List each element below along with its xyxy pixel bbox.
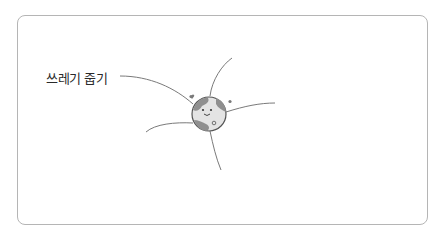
smiling-earth-globe-icon bbox=[192, 97, 226, 131]
heart-icon-left-dot bbox=[189, 95, 192, 98]
mindmap-canvas bbox=[0, 0, 442, 240]
branch-line-4 bbox=[146, 123, 193, 132]
branch-line-2 bbox=[210, 58, 232, 96]
branch-line-3 bbox=[226, 103, 275, 112]
heart-icon-right bbox=[228, 100, 231, 103]
branch-line-5 bbox=[210, 131, 221, 170]
branch-label-pick-up-trash: 쓰레기 줍기 bbox=[46, 68, 107, 87]
branch-line-1 bbox=[120, 76, 193, 104]
